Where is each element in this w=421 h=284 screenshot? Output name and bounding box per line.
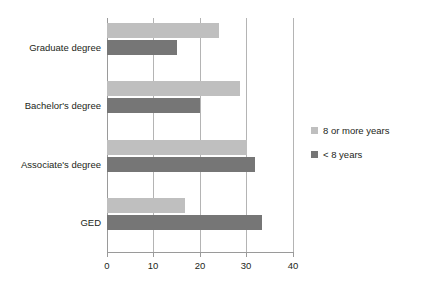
bar-ged-8-or-more-years [107,198,185,213]
x-tick-label-10: 10 [148,260,159,271]
x-tick-mark-30 [246,252,247,257]
legend-swatch-icon-less-than-8-years [311,151,318,158]
x-tick-mark-20 [200,252,201,257]
bar-graduate-degree-less-than-8-years [107,40,177,55]
legend-item-less-than-8-years: < 8 years [311,149,419,160]
category-label-associates-degree: Associate's degree [21,160,101,170]
bar-chart: 0 10 20 30 40 Graduate degree Bachelor's… [0,0,421,284]
chart-legend: 8 or more years < 8 years [311,125,419,173]
bar-ged-less-than-8-years [107,215,262,230]
category-axis-labels: Graduate degree Bachelor's degree Associ… [0,18,101,252]
x-tick-label-30: 30 [241,260,252,271]
legend-label-less-than-8-years: < 8 years [323,149,362,160]
bar-bachelors-degree-less-than-8-years [107,98,200,113]
bar-bachelors-degree-8-or-more-years [107,81,240,96]
gridline-40 [293,18,294,252]
plot-area [107,18,293,252]
legend-label-8-or-more-years: 8 or more years [323,125,390,136]
bar-associates-degree-less-than-8-years [107,157,255,172]
x-tick-mark-10 [153,252,154,257]
x-tick-label-0: 0 [104,260,109,271]
x-tick-mark-40 [293,252,294,257]
category-label-ged: GED [80,218,101,228]
bar-associates-degree-8-or-more-years [107,140,247,155]
x-tick-label-20: 20 [195,260,206,271]
bar-graduate-degree-8-or-more-years [107,23,219,38]
legend-swatch-icon-8-or-more-years [311,127,318,134]
category-label-graduate-degree: Graduate degree [29,43,101,53]
x-tick-mark-0 [107,252,108,257]
x-tick-label-40: 40 [288,260,299,271]
legend-item-8-or-more-years: 8 or more years [311,125,419,136]
category-label-bachelors-degree: Bachelor's degree [25,101,101,111]
